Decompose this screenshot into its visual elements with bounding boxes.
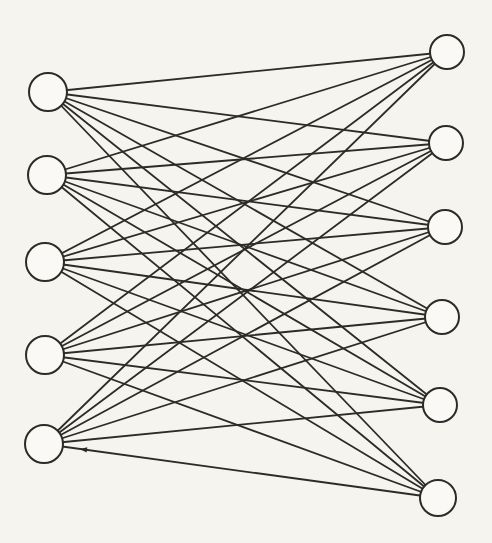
right-node-2 [429, 126, 463, 160]
edge-L1-R2 [48, 92, 446, 143]
edge-L2-R3 [47, 175, 445, 227]
right-node-5 [423, 388, 457, 422]
graph-canvas [0, 0, 492, 543]
right-node-3 [428, 210, 462, 244]
edge-L2-R2 [47, 143, 446, 175]
edge-L5-R6 [44, 444, 438, 498]
left-node-4 [26, 336, 64, 374]
left-node-1 [29, 73, 67, 111]
edge-L4-R6 [45, 355, 438, 498]
edge-L1-R1 [48, 52, 447, 92]
edge-L3-R4 [45, 262, 442, 317]
edge-L3-R5 [45, 262, 440, 405]
left-node-5 [25, 425, 63, 463]
right-node-6 [420, 480, 456, 516]
right-node-4 [425, 300, 459, 334]
bipartite-graph-diagram [0, 0, 492, 543]
right-node-1 [430, 35, 464, 69]
left-node-3 [26, 243, 64, 281]
left-node-2 [28, 156, 66, 194]
